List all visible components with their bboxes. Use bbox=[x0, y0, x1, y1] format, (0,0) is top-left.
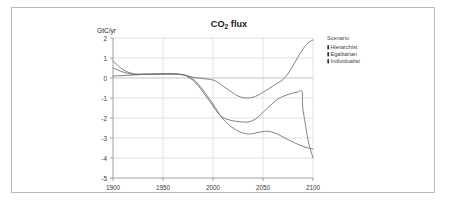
legend-label-hierarchist: Hierarchist bbox=[331, 44, 358, 50]
ytick-label--4: -4 bbox=[101, 155, 107, 162]
x-tick-marks bbox=[113, 178, 313, 181]
ytick-label-1: 1 bbox=[103, 55, 107, 62]
legend-label-egalitarian: Egalitarian bbox=[331, 51, 357, 57]
chart-title: CO2 flux bbox=[211, 19, 248, 30]
ytick-label--2: -2 bbox=[101, 115, 107, 122]
plot-area: 2 1 0 -1 -2 -3 -4 -5 1900 1950 2000 2050… bbox=[101, 35, 320, 192]
ytick-label-2: 2 bbox=[103, 35, 107, 42]
xtick-label-2050: 2050 bbox=[256, 184, 271, 191]
legend-label-individualist: Individualist bbox=[331, 58, 361, 64]
legend-item-individualist[interactable]: Individualist bbox=[328, 58, 360, 64]
y-tick-labels: 2 1 0 -1 -2 -3 -4 -5 bbox=[101, 35, 107, 182]
xtick-label-2100: 2100 bbox=[306, 184, 321, 191]
y-tick-marks bbox=[110, 38, 113, 178]
co2-flux-chart: CO2 flux GtC/yr bbox=[0, 0, 455, 214]
legend: Scenario Hierarchist Egalitarian Individ… bbox=[327, 35, 360, 64]
ytick-label--1: -1 bbox=[101, 95, 107, 102]
vertical-gridlines bbox=[163, 38, 313, 178]
ytick-label--5: -5 bbox=[101, 175, 107, 182]
legend-item-hierarchist[interactable]: Hierarchist bbox=[328, 44, 357, 50]
legend-item-egalitarian[interactable]: Egalitarian bbox=[328, 51, 357, 57]
figure-page: CO2 flux GtC/yr bbox=[0, 0, 455, 214]
x-tick-labels: 1900 1950 2000 2050 2100 bbox=[106, 184, 321, 191]
xtick-label-2000: 2000 bbox=[206, 184, 221, 191]
chart-title-tail: flux bbox=[228, 19, 248, 29]
chart-title-main: CO bbox=[211, 19, 225, 29]
xtick-label-1900: 1900 bbox=[106, 184, 121, 191]
ytick-label-0: 0 bbox=[103, 75, 107, 82]
xtick-label-1950: 1950 bbox=[156, 184, 171, 191]
ytick-label--3: -3 bbox=[101, 135, 107, 142]
legend-title: Scenario bbox=[327, 35, 349, 41]
